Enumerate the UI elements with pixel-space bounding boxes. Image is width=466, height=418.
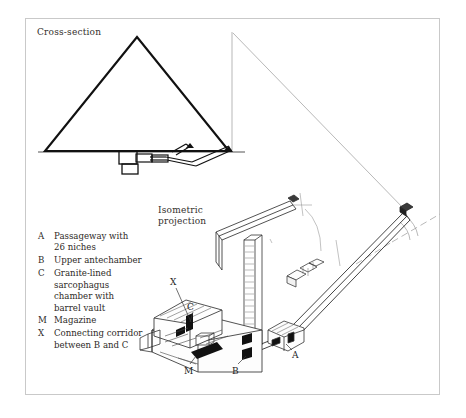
legend-row: APassageway with 26 niches	[38, 231, 142, 255]
legend-table: APassageway with 26 nichesBUpper antecha…	[38, 231, 142, 353]
cross-section-title: Cross-section	[37, 27, 101, 38]
callout-label-x: X	[170, 277, 176, 287]
legend-key: A	[38, 231, 54, 255]
callout-label-c: C	[187, 302, 194, 312]
legend-row: CGranite-lined sarcophagus chamber with …	[38, 268, 142, 315]
legend-row: XConnecting corridor between B and C	[38, 328, 142, 352]
callout-label-a: A	[292, 350, 299, 360]
legend-text: Upper antechamber	[54, 255, 142, 268]
figure-panel: Cross-section Isometric projection APass…	[0, 0, 466, 418]
legend-key: B	[38, 255, 54, 268]
callout-label-b: B	[232, 366, 239, 376]
legend-text: Connecting corridor between B and C	[54, 328, 142, 352]
callout-label-m: M	[184, 366, 193, 376]
legend-row: BUpper antechamber	[38, 255, 142, 268]
legend-key: X	[38, 328, 54, 352]
isometric-projection-title: Isometric projection	[158, 205, 206, 228]
legend-key: C	[38, 268, 54, 315]
legend-body: APassageway with 26 nichesBUpper antecha…	[38, 231, 142, 353]
legend-key: M	[38, 315, 54, 328]
legend-text: Granite-lined sarcophagus chamber with b…	[54, 268, 142, 315]
legend-text: Passageway with 26 niches	[54, 231, 142, 255]
legend: APassageway with 26 nichesBUpper antecha…	[38, 231, 142, 353]
legend-row: MMagazine	[38, 315, 142, 328]
legend-text: Magazine	[54, 315, 142, 328]
